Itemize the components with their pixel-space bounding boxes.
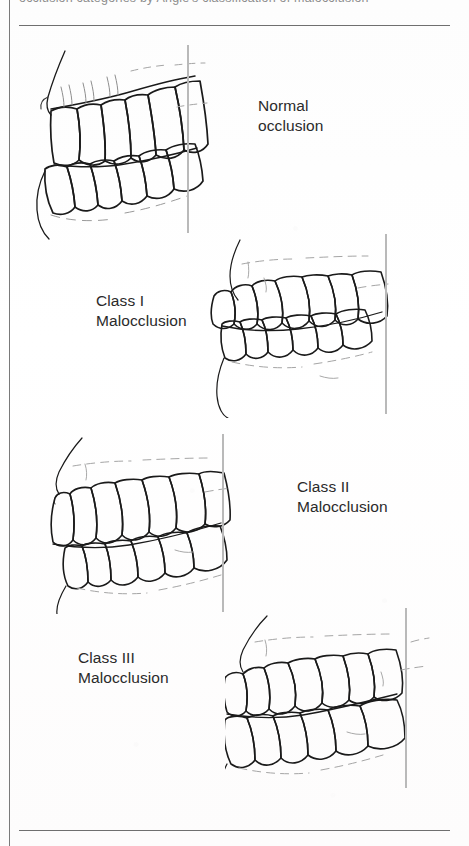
panel-class-i-malocclusion: [210, 236, 405, 418]
label-class-i-malocclusion: Class I Malocclusion: [96, 291, 187, 330]
class-iii-malocclusion-drawing: [225, 612, 430, 790]
reference-line-class-i: [385, 234, 387, 414]
top-rule: [19, 25, 450, 26]
left-margin-rule: [9, 0, 10, 846]
reference-line-class-ii: [222, 434, 224, 612]
figure-page: occlusion categories by Angle's classifi…: [0, 0, 469, 846]
reference-line-normal-occlusion: [187, 45, 189, 233]
bottom-rule: [19, 830, 450, 831]
class-ii-malocclusion-drawing: [25, 436, 240, 614]
class-i-malocclusion-drawing: [210, 236, 405, 418]
label-class-iii-malocclusion: Class III Malocclusion: [78, 648, 169, 687]
panel-class-iii-malocclusion: [225, 612, 430, 790]
page-header-cropped: occlusion categories by Angle's classifi…: [19, 0, 450, 7]
panel-class-ii-malocclusion: [25, 436, 240, 614]
label-class-ii-malocclusion: Class II Malocclusion: [297, 477, 388, 516]
label-normal-occlusion: Normal occlusion: [258, 96, 324, 135]
reference-line-class-iii: [405, 608, 407, 788]
page-header-text: occlusion categories by Angle's classifi…: [19, 0, 450, 5]
